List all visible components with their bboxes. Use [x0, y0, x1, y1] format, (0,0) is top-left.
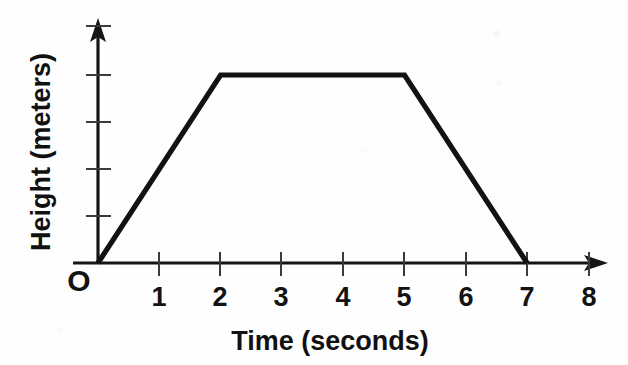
y-axis-group [86, 18, 111, 263]
x-axis-title: Time (seconds) [231, 326, 429, 356]
x-tick-label-6: 6 [458, 282, 473, 312]
x-tick-label-7: 7 [519, 282, 534, 312]
x-tick-label-5: 5 [396, 282, 411, 312]
x-tick-label-2: 2 [212, 282, 227, 312]
x-tick-label-1: 1 [151, 282, 166, 312]
height-vs-time-line-chart: 1 2 3 4 5 6 7 8 O Time (seconds) Height … [0, 0, 628, 365]
chart-canvas: 1 2 3 4 5 6 7 8 O Time (seconds) Height … [0, 0, 628, 365]
x-tick-label-3: 3 [273, 282, 288, 312]
origin-label: O [67, 264, 90, 297]
x-axis-tick-labels: 1 2 3 4 5 6 7 8 [151, 282, 596, 312]
x-tick-label-8: 8 [581, 282, 596, 312]
data-series-line [98, 75, 527, 263]
x-tick-label-4: 4 [335, 282, 350, 312]
x-axis-group [73, 252, 608, 276]
y-axis-title: Height (meters) [26, 53, 56, 251]
